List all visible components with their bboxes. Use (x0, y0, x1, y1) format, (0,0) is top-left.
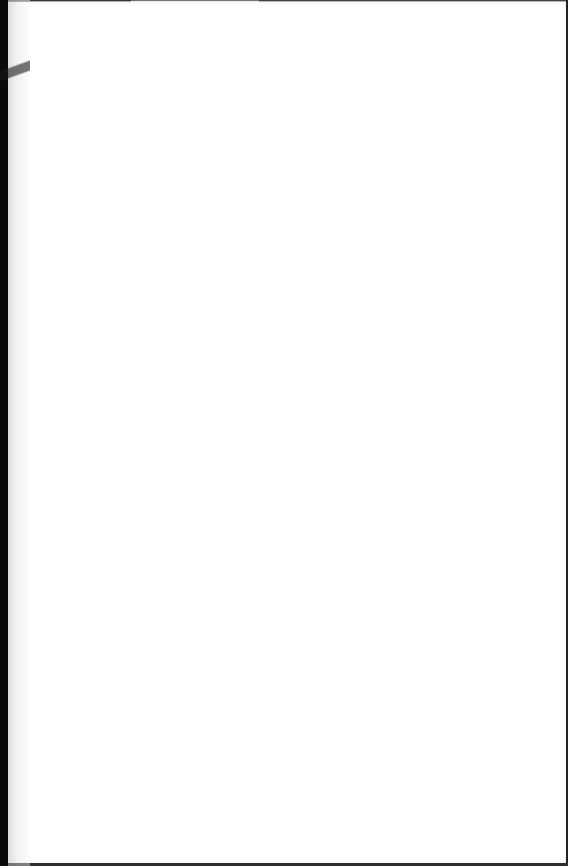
scanned-page-scene (0, 0, 568, 866)
page-fold-shadow (0, 0, 30, 190)
page-content (48, 41, 536, 823)
blank-page (8, 1, 566, 863)
top-edge-shadow (8, 0, 566, 2)
